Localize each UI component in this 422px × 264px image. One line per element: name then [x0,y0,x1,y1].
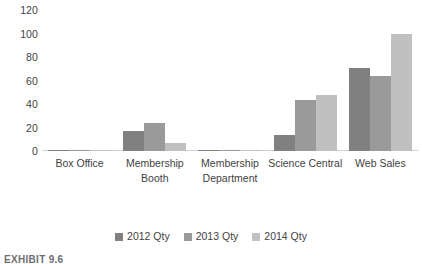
exhibit-caption: EXHIBIT 9.6 [4,254,63,264]
bar[interactable] [198,150,219,151]
legend-item[interactable]: 2013 Qty [184,231,239,242]
category-label: Science Central [268,156,343,171]
y-tick-label: 80 [0,52,38,63]
category-label: Membership Department [192,156,267,186]
category-label: Membership Booth [117,156,192,186]
bar-group [343,10,418,151]
y-tick-label: 100 [0,29,38,40]
bar[interactable] [391,34,412,152]
legend-label: 2013 Qty [196,231,239,242]
bar-group [117,10,192,151]
bar-group [192,10,267,151]
bar[interactable] [165,143,186,151]
legend-swatch-icon [115,233,123,241]
y-axis: 120100806040200 [0,0,38,161]
bar-chart: 120100806040200 Box OfficeMembership Boo… [0,0,422,264]
bar[interactable] [219,150,240,151]
bar[interactable] [370,76,391,151]
bar[interactable] [274,135,295,151]
y-tick-label: 120 [0,5,38,16]
legend-swatch-icon [184,233,192,241]
bar[interactable] [316,95,337,151]
y-tick-label: 60 [0,76,38,87]
chart-legend: 2012 Qty2013 Qty2014 Qty [0,231,422,242]
category-label: Box Office [42,156,117,171]
bar-group [268,10,343,151]
bar[interactable] [240,150,261,151]
bar[interactable] [123,131,144,151]
legend-item[interactable]: 2012 Qty [115,231,170,242]
category-label: Web Sales [343,156,418,171]
bar[interactable] [349,68,370,151]
bar-group [42,10,117,151]
bar[interactable] [69,150,90,151]
legend-swatch-icon [252,233,260,241]
category-axis-labels: Box OfficeMembership BoothMembership Dep… [42,156,418,200]
y-tick-label: 20 [0,123,38,134]
y-tick-label: 40 [0,99,38,110]
legend-item[interactable]: 2014 Qty [252,231,307,242]
legend-label: 2012 Qty [127,231,170,242]
y-tick-label: 0 [0,146,38,157]
bar[interactable] [144,123,165,151]
bar[interactable] [90,150,111,151]
bar[interactable] [48,150,69,151]
legend-label: 2014 Qty [264,231,307,242]
plot-area [42,10,418,151]
bar[interactable] [295,100,316,151]
